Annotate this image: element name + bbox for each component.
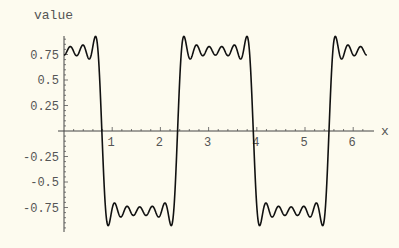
tick-labels: 1234560.750.50.25-0.25-0.5-0.75 bbox=[23, 49, 356, 216]
y-axis-label: value bbox=[34, 8, 73, 23]
y-tick-label: -0.75 bbox=[23, 202, 59, 216]
x-tick-label: 3 bbox=[204, 136, 211, 150]
axis-ticks bbox=[64, 39, 363, 228]
x-tick-label: 1 bbox=[108, 136, 115, 150]
fourier-square-wave-chart: 1234560.750.50.25-0.25-0.5-0.75 value x bbox=[0, 0, 399, 248]
x-axis-label: x bbox=[381, 124, 389, 139]
y-tick-label: -0.25 bbox=[23, 151, 59, 165]
y-tick-label: 0.5 bbox=[37, 74, 59, 88]
y-tick-label: 0.75 bbox=[30, 49, 59, 63]
x-tick-label: 2 bbox=[156, 136, 163, 150]
y-tick-label: -0.5 bbox=[30, 176, 59, 190]
x-tick-label: 5 bbox=[300, 136, 307, 150]
y-tick-label: 0.25 bbox=[30, 100, 59, 114]
x-tick-label: 6 bbox=[349, 136, 356, 150]
